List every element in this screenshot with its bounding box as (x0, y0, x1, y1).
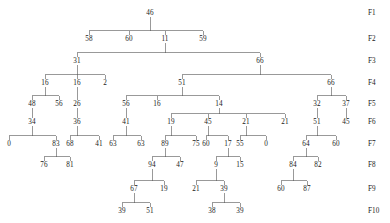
level-label-F4: F4 (368, 80, 376, 87)
tree-node-16: 16 (153, 101, 160, 108)
level-label-F10: F10 (368, 208, 380, 215)
tree-node-11: 11 (161, 36, 168, 43)
tree-node-51: 51 (178, 80, 185, 87)
level-label-F6: F6 (368, 119, 376, 126)
tree-node-66: 66 (256, 58, 263, 65)
tree-node-0: 0 (7, 141, 11, 148)
level-label-F5: F5 (368, 101, 376, 108)
tree-node-36: 36 (73, 119, 80, 126)
tree-node-21: 21 (192, 186, 199, 193)
tree-node-17: 17 (224, 141, 231, 148)
level-label-F2: F2 (368, 36, 376, 43)
tree-node-37: 37 (342, 101, 349, 108)
tree-node-63: 63 (109, 141, 116, 148)
tree-node-38: 38 (208, 208, 215, 215)
tree-node-16: 16 (41, 80, 48, 87)
tree-node-14: 14 (215, 101, 222, 108)
tree-node-60: 60 (125, 36, 132, 43)
tree-node-16: 16 (73, 80, 80, 87)
level-label-F8: F8 (368, 162, 376, 169)
tree-node-45: 45 (342, 119, 349, 126)
tree-node-9: 9 (214, 162, 218, 169)
tree-node-26: 26 (73, 101, 80, 108)
tree-node-21: 21 (281, 119, 288, 126)
tree-node-48: 48 (28, 101, 35, 108)
level-label-F3: F3 (368, 58, 376, 65)
level-label-F1: F1 (368, 10, 376, 17)
tree-node-82: 82 (314, 162, 321, 169)
tree-node-51: 51 (146, 208, 153, 215)
tree-node-87: 87 (303, 186, 310, 193)
tree-node-63: 63 (137, 141, 144, 148)
tree-node-76: 76 (40, 162, 47, 169)
tree-node-81: 81 (66, 162, 73, 169)
tree-node-68: 68 (66, 141, 73, 148)
tree-node-60: 60 (202, 141, 209, 148)
tree-node-60: 60 (277, 186, 284, 193)
tree-node-66: 66 (327, 80, 334, 87)
tree-node-15: 15 (236, 162, 243, 169)
level-label-F9: F9 (368, 186, 376, 193)
tree-diagram: 4658601159316616162516648562656161432373… (0, 0, 390, 223)
tree-node-56: 56 (55, 101, 62, 108)
tree-node-58: 58 (85, 36, 92, 43)
tree-node-75: 75 (192, 141, 199, 148)
tree-node-32: 32 (313, 101, 320, 108)
tree-node-41: 41 (122, 119, 129, 126)
tree-node-55: 55 (236, 141, 243, 148)
tree-node-19: 19 (160, 186, 167, 193)
tree-node-51: 51 (313, 119, 320, 126)
tree-node-19: 19 (167, 119, 174, 126)
tree-node-2: 2 (103, 80, 107, 87)
tree-node-46: 46 (146, 10, 153, 17)
tree-node-39: 39 (220, 186, 227, 193)
tree-node-56: 56 (122, 101, 129, 108)
tree-node-39: 39 (236, 208, 243, 215)
tree-node-64: 64 (302, 141, 309, 148)
tree-node-45: 45 (204, 119, 211, 126)
tree-node-83: 83 (52, 141, 59, 148)
tree-node-31: 31 (73, 58, 80, 65)
tree-node-41: 41 (95, 141, 102, 148)
tree-node-0: 0 (264, 141, 268, 148)
tree-node-21: 21 (242, 119, 249, 126)
tree-node-39: 39 (118, 208, 125, 215)
tree-node-60: 60 (332, 141, 339, 148)
tree-node-34: 34 (28, 119, 35, 126)
tree-node-67: 67 (130, 186, 137, 193)
level-label-F7: F7 (368, 141, 376, 148)
tree-node-47: 47 (176, 162, 183, 169)
tree-node-89: 89 (161, 141, 168, 148)
tree-node-59: 59 (199, 36, 206, 43)
tree-node-84: 84 (289, 162, 296, 169)
tree-node-94: 94 (148, 162, 155, 169)
